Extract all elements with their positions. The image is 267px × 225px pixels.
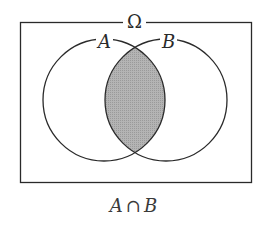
- set-a-label: A: [96, 33, 113, 51]
- diagram-caption: A∩B: [0, 195, 267, 216]
- caption-set-a: A: [110, 195, 123, 216]
- set-b-label: B: [160, 33, 177, 51]
- venn-diagram: Ω A B A∩B: [0, 0, 267, 225]
- caption-set-b: B: [144, 195, 157, 216]
- universe-label: Ω: [123, 13, 146, 31]
- intersection-symbol: ∩: [123, 195, 144, 216]
- venn-diagram-svg: [0, 0, 267, 225]
